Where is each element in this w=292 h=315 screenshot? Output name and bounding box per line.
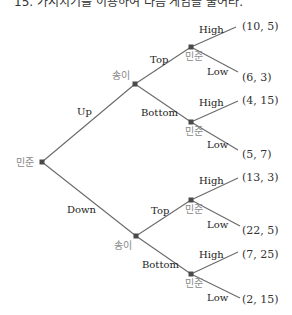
payoff-4: (5, 7) xyxy=(242,148,272,161)
move-label-ub-low: Low xyxy=(207,139,229,150)
node-down-top xyxy=(189,198,194,203)
edge-down xyxy=(42,162,136,236)
move-label-down-top: Top xyxy=(151,205,169,216)
player-label-root: 민준 xyxy=(16,157,34,168)
root-node xyxy=(40,160,45,165)
game-tree: 민준 송이 송이 민준 민준 민준 민준 Up Down Top Bottom … xyxy=(0,0,292,315)
move-label-ub-high: High xyxy=(199,97,224,108)
node-up-top xyxy=(189,45,194,50)
player-label-up-top: 민준 xyxy=(185,51,203,62)
move-label-up-bottom: Bottom xyxy=(141,107,178,118)
node-down-bottom xyxy=(189,272,194,277)
player-label-up-bottom: 민준 xyxy=(185,126,203,137)
move-label-db-high: High xyxy=(199,249,224,260)
move-label-down: Down xyxy=(67,204,97,215)
node-up-bottom xyxy=(189,120,194,125)
player-label-up: 송이 xyxy=(112,70,130,81)
player-label-down-top: 민준 xyxy=(185,204,203,215)
move-label-up: Up xyxy=(77,106,92,117)
move-label-down-bottom: Bottom xyxy=(142,259,179,270)
move-label-dt-high: High xyxy=(199,175,224,186)
move-label-ut-low: Low xyxy=(207,66,229,77)
payoff-6: (22, 5) xyxy=(242,224,279,237)
player-label-down: 송이 xyxy=(114,240,132,251)
payoff-8: (2, 15) xyxy=(242,293,279,306)
player-label-down-bottom: 민준 xyxy=(185,278,203,289)
edge-up-top xyxy=(135,47,191,84)
node-down xyxy=(134,234,139,239)
move-label-db-low: Low xyxy=(207,292,229,303)
payoff-7: (7, 25) xyxy=(242,248,279,261)
edge-up xyxy=(42,84,135,162)
payoff-5: (13, 3) xyxy=(242,171,279,184)
payoff-2: (6, 3) xyxy=(242,71,272,84)
move-label-ut-high: High xyxy=(199,24,224,35)
node-up xyxy=(133,82,138,87)
payoff-1: (10, 5) xyxy=(242,20,279,33)
payoff-3: (4, 15) xyxy=(242,94,279,107)
move-label-up-top: Top xyxy=(150,54,168,65)
move-label-dt-low: Low xyxy=(207,219,229,230)
